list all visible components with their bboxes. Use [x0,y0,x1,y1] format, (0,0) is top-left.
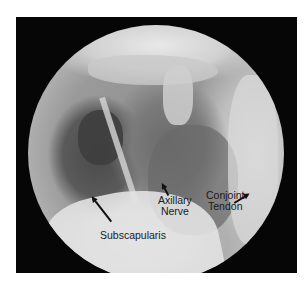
axillary-nerve-label: Axillary Nerve [158,195,192,217]
tissue-flap [163,65,193,125]
arthroscopy-image-frame: Subscapularis Axillary Nerve Conjoint Te… [16,17,297,273]
subscapularis-label: Subscapularis [100,230,166,241]
conjoint-tendon-label: Conjoint Tendon [206,190,245,212]
conjoint-tendon-label-line2: Tendon [206,201,245,212]
conjoint-tendon-tissue [228,75,278,245]
axillary-nerve-label-line2: Nerve [158,206,192,217]
upper-tissue-band [88,55,218,85]
